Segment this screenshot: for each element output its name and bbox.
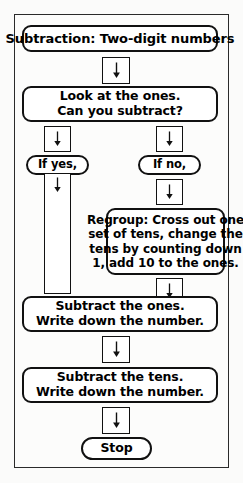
node-stop: Stop: [81, 437, 152, 460]
connector-arrow-into-regroup: [156, 179, 183, 205]
node-regroup-line-2: set of tens, change the: [88, 227, 242, 241]
down-arrow-icon: [52, 131, 63, 147]
node-subtract-ones-line-1: Subtract the ones.: [55, 299, 184, 314]
node-branch-yes: If yes,: [26, 155, 89, 175]
node-decision-line-2: Can you subtract?: [57, 104, 183, 119]
node-subtract-ones: Subtract the ones. Write down the number…: [22, 296, 218, 332]
node-subtract-tens: Subtract the tens. Write down the number…: [22, 367, 218, 403]
down-arrow-icon: [52, 177, 63, 193]
flowchart-page: Subtraction: Two-digit numbers Look at t…: [0, 0, 243, 483]
connector-arrow-no: [156, 126, 183, 152]
node-branch-yes-label: If yes,: [38, 158, 77, 172]
node-stop-label: Stop: [100, 441, 132, 456]
node-regroup-line-3: tens by counting down: [89, 242, 241, 256]
node-subtract-ones-line-2: Write down the number.: [36, 314, 204, 329]
down-arrow-icon: [164, 131, 175, 147]
node-branch-no-label: If no,: [153, 158, 186, 172]
node-decision-line-1: Look at the ones.: [60, 89, 181, 104]
node-title: Subtraction: Two-digit numbers: [22, 25, 218, 52]
node-regroup: Regroup: Cross out one set of tens, chan…: [106, 208, 225, 275]
connector-arrow-yes: [44, 126, 71, 152]
node-title-label: Subtraction: Two-digit numbers: [6, 31, 235, 46]
connector-yes-passthrough: [44, 173, 71, 294]
node-regroup-line-4: 1, add 10 to the ones.: [92, 256, 239, 270]
node-subtract-tens-line-2: Write down the number.: [36, 385, 204, 400]
down-arrow-icon: [111, 62, 122, 79]
node-branch-no: If no,: [138, 155, 201, 175]
diagram-frame: Subtraction: Two-digit numbers Look at t…: [14, 14, 229, 468]
node-subtract-tens-line-1: Subtract the tens.: [57, 370, 184, 385]
down-arrow-icon: [164, 184, 175, 200]
connector-arrow-1: [102, 57, 130, 84]
down-arrow-icon: [111, 341, 122, 358]
connector-arrow-6: [102, 407, 130, 434]
node-decision-look-at-ones: Look at the ones. Can you subtract?: [22, 86, 218, 122]
down-arrow-icon: [111, 412, 122, 429]
node-regroup-line-1: Regroup: Cross out one: [87, 213, 243, 227]
connector-arrow-5: [102, 336, 130, 363]
